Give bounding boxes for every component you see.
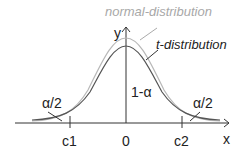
normal-pointer-arrow-icon — [140, 28, 157, 40]
x-axis-label: x — [223, 132, 230, 146]
right-tail-pointer-arrow-icon — [190, 112, 200, 121]
c1-label: c1 — [62, 134, 77, 148]
c2-label: c2 — [174, 134, 189, 148]
normal-distribution-label: normal-distribution — [105, 5, 212, 18]
y-axis-label: y — [114, 26, 121, 40]
left-tail-label: α/2 — [42, 96, 62, 110]
center-area-label: 1-α — [131, 85, 152, 99]
zero-label: 0 — [122, 134, 130, 148]
right-tail-label: α/2 — [193, 96, 213, 110]
t-distribution-label: t-distribution — [156, 38, 227, 51]
